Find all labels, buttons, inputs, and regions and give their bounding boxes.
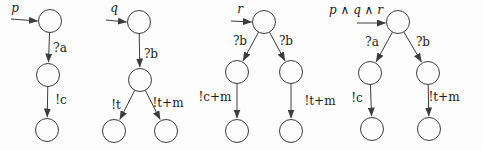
initial-arrow bbox=[11, 19, 38, 21]
state-node bbox=[253, 11, 276, 34]
edge-label: !c bbox=[351, 91, 363, 105]
state-node bbox=[387, 11, 410, 34]
initial-arrow bbox=[106, 20, 127, 22]
state-node bbox=[36, 119, 59, 142]
edge-label: !t+m bbox=[152, 96, 184, 110]
edge-label: !t bbox=[111, 98, 121, 112]
edge-label: ?a bbox=[365, 35, 379, 49]
diagram-p-and-q-and-r: p ∧ q ∧ r?a?b!c!t+m bbox=[329, 3, 460, 141]
transition-edge bbox=[48, 32, 49, 62]
edge-label: !c+m bbox=[199, 90, 233, 104]
state-node bbox=[155, 120, 178, 143]
process-name-label: r bbox=[237, 2, 244, 16]
state-node bbox=[226, 61, 249, 84]
state-node bbox=[129, 69, 152, 92]
state-node bbox=[417, 62, 440, 85]
diagram-p: p?a!c bbox=[11, 1, 67, 142]
edge-label: ?b bbox=[279, 34, 293, 48]
edge-label: ?b bbox=[233, 34, 247, 48]
process-name-label: p bbox=[11, 1, 19, 15]
initial-arrow bbox=[231, 21, 252, 22]
edge-label: !t+m bbox=[428, 90, 460, 104]
transition-edge bbox=[139, 33, 140, 67]
transition-edge bbox=[47, 86, 48, 117]
state-node bbox=[280, 61, 303, 84]
transition-edge bbox=[370, 84, 371, 116]
state-node bbox=[418, 118, 441, 141]
transition-edge bbox=[120, 90, 135, 119]
state-node bbox=[37, 64, 60, 87]
state-node bbox=[39, 10, 62, 33]
process-name-label: q bbox=[110, 1, 118, 15]
state-node bbox=[361, 118, 384, 141]
diagram-svg: p?a!cq?b!t!t+mr?b?b!c+m!t+mp ∧ q ∧ r?a?b… bbox=[0, 0, 483, 151]
edge-label: ?b bbox=[416, 35, 430, 49]
edge-label: ?b bbox=[144, 47, 158, 61]
edge-label: !t+m bbox=[304, 94, 336, 108]
state-node bbox=[103, 120, 126, 143]
process-name-label: p ∧ q ∧ r bbox=[329, 3, 384, 17]
process-trees-figure: p?a!cq?b!t!t+mr?b?b!c+m!t+mp ∧ q ∧ r?a?b… bbox=[0, 0, 483, 151]
edge-label: !c bbox=[55, 93, 67, 107]
diagram-r: r?b?b!c+m!t+m bbox=[199, 2, 337, 143]
state-node bbox=[226, 120, 249, 143]
state-node bbox=[280, 120, 303, 143]
state-node bbox=[359, 62, 382, 85]
state-node bbox=[128, 11, 151, 34]
diagram-q: q?b!t!t+m bbox=[103, 1, 185, 143]
edge-label: ?a bbox=[53, 41, 67, 55]
